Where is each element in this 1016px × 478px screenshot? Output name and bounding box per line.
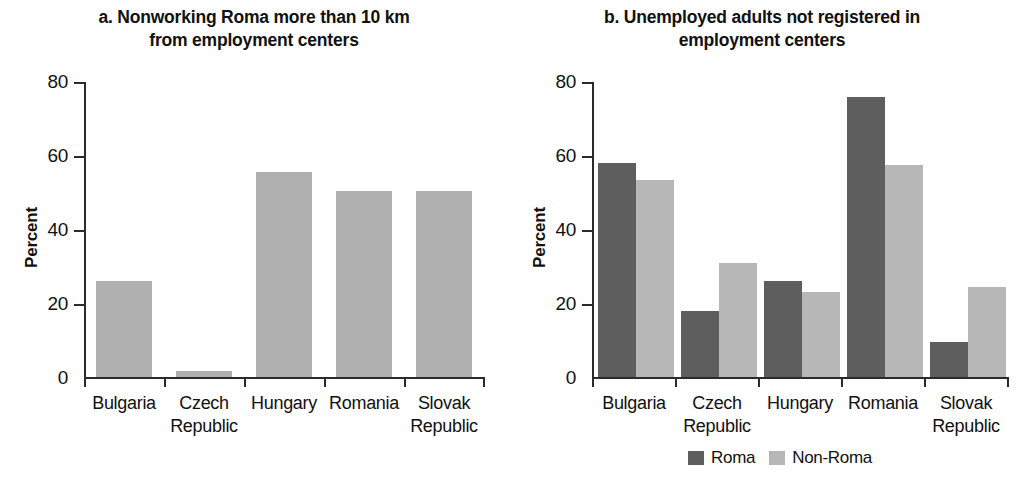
panel-b-legend: Roma Non-Roma (688, 448, 872, 468)
legend-item-roma[interactable]: Roma (688, 448, 755, 468)
panel-a-tickmark-80 (74, 82, 84, 84)
panel-a-ytick-20: 20 (28, 293, 68, 315)
panel-a-tickmark-40 (74, 230, 84, 232)
panel-b-catlabel-hungary: Hungary (758, 392, 842, 415)
legend-swatch-roma-icon (688, 451, 704, 465)
panel-b-tickmark-80 (582, 82, 592, 84)
legend-swatch-non-roma-icon (769, 451, 785, 465)
bar-b-slovak-republic-roma (930, 342, 968, 377)
catlabel-line1: Romania (324, 392, 404, 415)
catlabel-line1: Hungary (758, 392, 842, 415)
panel-b-xtick-5 (1007, 377, 1009, 387)
catlabel-line2: Republic (164, 415, 244, 438)
catlabel-line1: Romania (841, 392, 925, 415)
catlabel-line2: Republic (404, 415, 484, 438)
panel-a-xtick-0 (84, 377, 86, 387)
panel-b-catlabel-czech-republic: Czech Republic (675, 392, 759, 438)
legend-label-roma: Roma (711, 448, 755, 468)
bar-a-slovak-republic (416, 191, 472, 377)
bar-b-hungary-roma (764, 281, 802, 377)
bar-b-hungary-non-roma (802, 292, 840, 377)
panel-b-tickmark-40 (582, 230, 592, 232)
bar-b-czech-republic-non-roma (719, 263, 757, 377)
panel-b-catlabel-slovak-republic: Slovak Republic (924, 392, 1008, 438)
catlabel-line1: Czech (164, 392, 244, 415)
panel-a-catlabel-slovak-republic: Slovak Republic (404, 392, 484, 438)
panel-b-tickmark-60 (582, 156, 592, 158)
bar-b-romania-non-roma (885, 165, 923, 377)
panel-a-ytick-80: 80 (28, 71, 68, 93)
legend-item-non-roma[interactable]: Non-Roma (769, 448, 872, 468)
panel-b-ytick-20: 20 (536, 293, 576, 315)
panel-b-catlabel-bulgaria: Bulgaria (592, 392, 676, 415)
bar-a-hungary (256, 172, 312, 377)
panel-a-ytick-40: 40 (28, 219, 68, 241)
panel-a-y-axis (84, 82, 86, 379)
panel-a-catlabel-romania: Romania (324, 392, 404, 415)
panel-b-catlabel-romania: Romania (841, 392, 925, 415)
panel-b-x-axis (592, 377, 1008, 379)
panel-b-xtick-4 (924, 377, 926, 387)
panel-a-xtick-5 (483, 377, 485, 387)
panel-a-catlabel-hungary: Hungary (244, 392, 324, 415)
panel-b-ytick-40: 40 (536, 219, 576, 241)
catlabel-line1: Hungary (244, 392, 324, 415)
bar-b-romania-roma (847, 97, 885, 377)
bar-b-czech-republic-roma (681, 311, 719, 377)
catlabel-line1: Czech (675, 392, 759, 415)
catlabel-line1: Bulgaria (84, 392, 164, 415)
panel-a-xtick-4 (404, 377, 406, 387)
bar-a-romania (336, 191, 392, 377)
bar-b-slovak-republic-non-roma (968, 287, 1006, 377)
panel-a-ytick-60: 60 (28, 145, 68, 167)
panel-a-catlabel-bulgaria: Bulgaria (84, 392, 164, 415)
panel-b-xtick-3 (841, 377, 843, 387)
panel-b-ytick-0: 0 (536, 367, 576, 389)
bar-b-bulgaria-non-roma (636, 180, 674, 377)
bar-b-bulgaria-roma (598, 163, 636, 377)
panel-a-xtick-3 (324, 377, 326, 387)
panel-b-xtick-1 (675, 377, 677, 387)
panel-a-catlabel-czech-republic: Czech Republic (164, 392, 244, 438)
bar-a-bulgaria (96, 281, 152, 377)
panel-a-xtick-2 (244, 377, 246, 387)
figure-two-panel-bar-chart: a. Nonworking Roma more than 10 km from … (0, 0, 1016, 478)
panel-b-ytick-60: 60 (536, 145, 576, 167)
panel-b-xtick-2 (758, 377, 760, 387)
panel-b-y-axis (592, 82, 594, 379)
panel-a-x-axis (84, 377, 484, 379)
panel-a-ytick-0: 0 (28, 367, 68, 389)
catlabel-line1: Slovak (404, 392, 484, 415)
legend-label-non-roma: Non-Roma (792, 448, 872, 468)
panel-a-tickmark-20 (74, 304, 84, 306)
panel-b-xtick-0 (592, 377, 594, 387)
panel-b-plot-area: Percent 80 60 40 20 0 (508, 0, 1016, 478)
panel-b: b. Unemployed adults not registered in e… (508, 0, 1016, 478)
panel-a: a. Nonworking Roma more than 10 km from … (0, 0, 508, 478)
panel-b-ytick-80: 80 (536, 71, 576, 93)
bar-a-czech-republic (176, 371, 232, 377)
panel-a-plot-area: Percent 80 60 40 20 0 (0, 0, 508, 478)
catlabel-line1: Bulgaria (592, 392, 676, 415)
catlabel-line2: Republic (924, 415, 1008, 438)
panel-a-tickmark-60 (74, 156, 84, 158)
catlabel-line1: Slovak (924, 392, 1008, 415)
panel-a-xtick-1 (164, 377, 166, 387)
panel-b-tickmark-20 (582, 304, 592, 306)
catlabel-line2: Republic (675, 415, 759, 438)
